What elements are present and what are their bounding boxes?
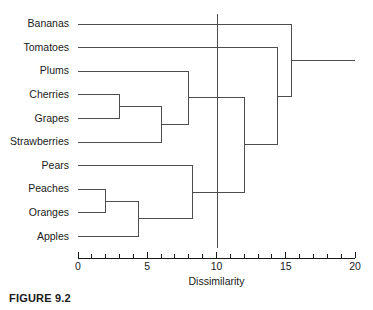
link-m3: [78, 201, 139, 236]
tick-label-5: 5: [144, 260, 150, 272]
x-axis: 05101520Dissimilarity: [75, 252, 361, 287]
link-m1: [78, 189, 106, 213]
tick-label-20: 20: [349, 260, 361, 272]
leaf-label-plums: Plums: [40, 64, 69, 76]
tick-label-10: 10: [211, 260, 223, 272]
link-m6: [78, 166, 193, 219]
link-m7: [189, 98, 244, 192]
leaf-label-peaches: Peaches: [28, 182, 69, 194]
leaf-label-strawberries: Strawberries: [10, 135, 69, 147]
x-axis-title: Dissimilarity: [189, 275, 246, 287]
dendrogram-links: [78, 24, 355, 236]
dendrogram-chart: BananasTomatoesPlumsCherriesGrapesStrawb…: [0, 0, 373, 310]
tick-label-0: 0: [75, 260, 81, 272]
leaf-labels: BananasTomatoesPlumsCherriesGrapesStrawb…: [10, 17, 69, 241]
leaf-label-tomatoes: Tomatoes: [23, 41, 69, 53]
leaf-label-grapes: Grapes: [35, 112, 69, 124]
link-m8: [78, 48, 277, 145]
leaf-label-pears: Pears: [42, 159, 69, 171]
leaf-label-apples: Apples: [37, 230, 69, 242]
link-m2: [78, 95, 120, 119]
figure-container: BananasTomatoesPlumsCherriesGrapesStrawb…: [0, 0, 373, 310]
link-m5: [78, 71, 189, 124]
figure-caption: FIGURE 9.2: [9, 292, 71, 304]
link-m9: [78, 24, 291, 96]
leaf-label-oranges: Oranges: [29, 206, 69, 218]
leaf-label-bananas: Bananas: [28, 17, 69, 29]
tick-label-15: 15: [280, 260, 292, 272]
leaf-label-cherries: Cherries: [29, 88, 69, 100]
